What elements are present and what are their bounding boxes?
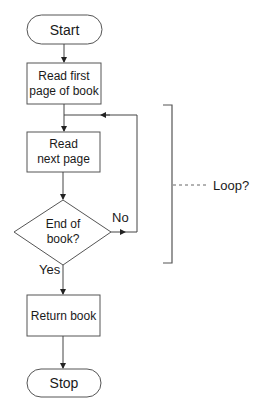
read-first-line1: Read first — [38, 69, 90, 83]
read-next-line1: Read — [49, 137, 78, 151]
loop-bracket — [163, 105, 172, 263]
start-node: Start — [27, 15, 102, 44]
no-label: No — [112, 210, 129, 225]
return-book-node: Return book — [27, 295, 100, 336]
read-next-line2: next page — [37, 152, 90, 166]
decision-line2: book? — [47, 232, 80, 246]
start-label: Start — [50, 22, 80, 38]
read-next-page-node: Read next page — [27, 132, 100, 172]
stop-node: Stop — [27, 369, 101, 397]
flowchart: Start Read first page of book Read next … — [0, 0, 260, 408]
loop-annotation-label: Loop? — [213, 178, 249, 193]
read-first-line2: page of book — [29, 84, 99, 98]
stop-label: Stop — [50, 375, 79, 391]
end-of-book-decision: End of book? — [14, 200, 111, 265]
read-first-page-node: Read first page of book — [27, 63, 101, 104]
return-book-label: Return book — [31, 309, 97, 323]
decision-line1: End of — [46, 217, 81, 231]
yes-label: Yes — [39, 262, 61, 277]
